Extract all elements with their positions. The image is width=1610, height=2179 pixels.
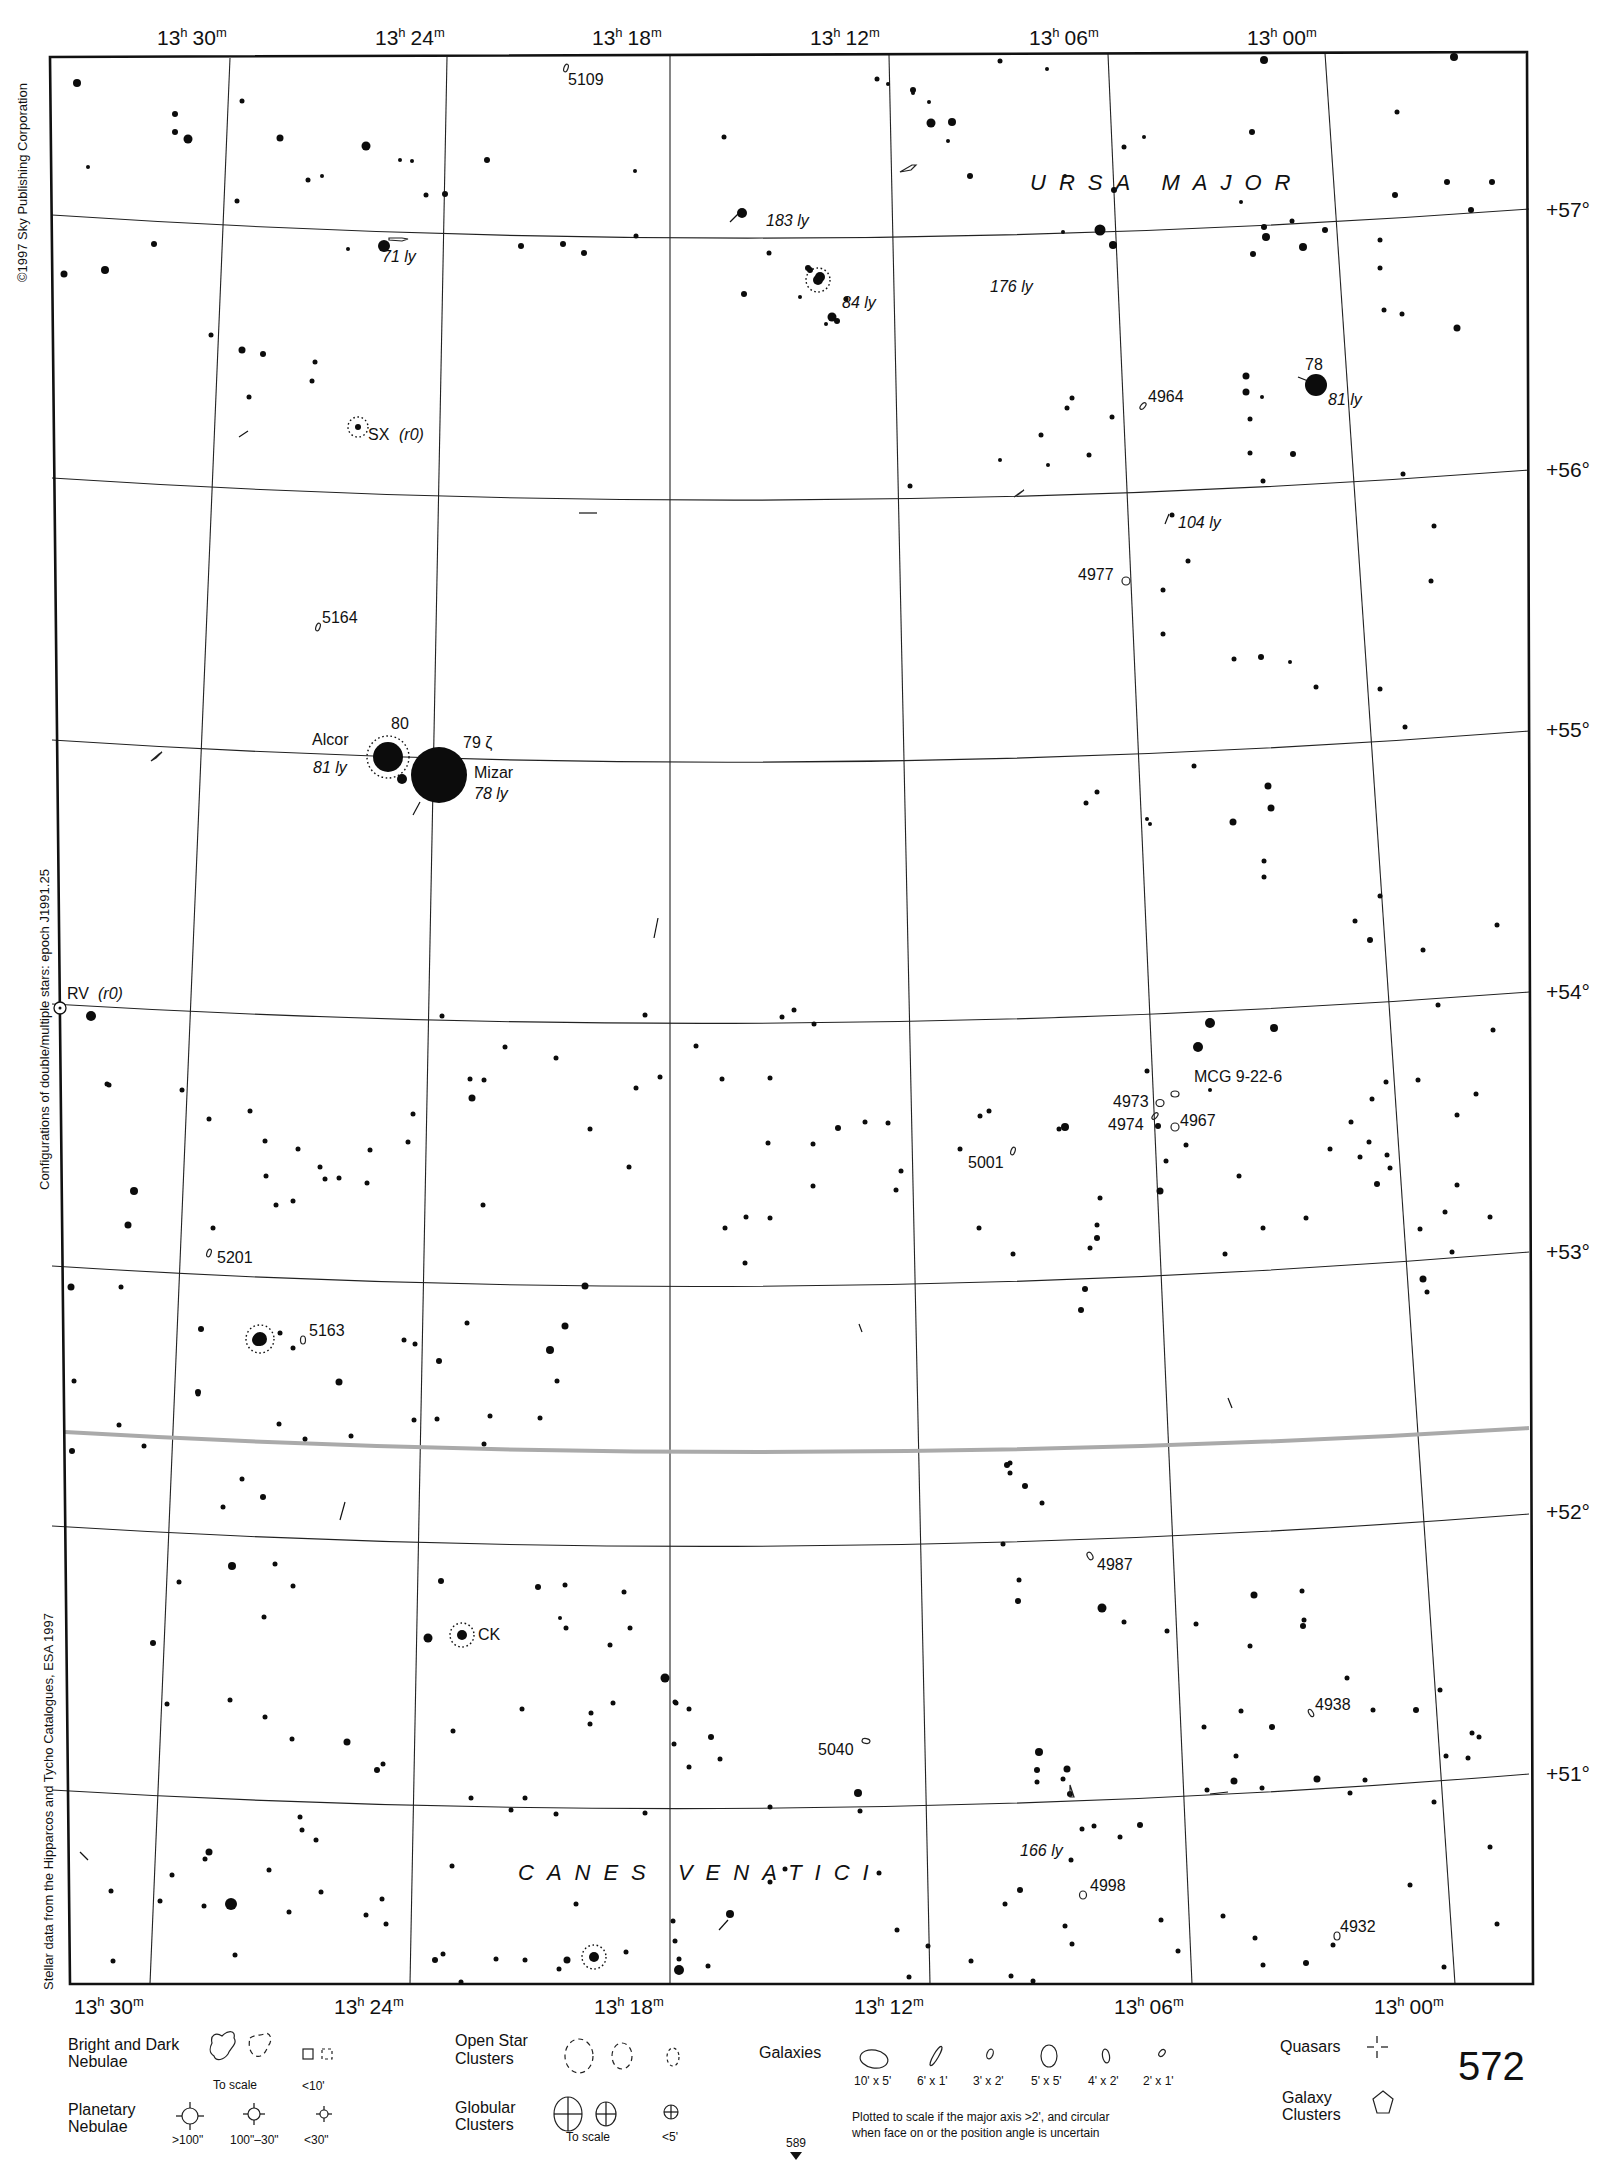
label-ngc4973: 4973 (1113, 1093, 1149, 1110)
label-ngc5109: 5109 (568, 71, 604, 88)
star (1299, 243, 1307, 251)
variable-star (589, 1952, 599, 1962)
star (1474, 1092, 1479, 1097)
star (560, 241, 566, 247)
star (1202, 1725, 1207, 1730)
label-dist-78-mizar: 78 ly (474, 785, 509, 802)
star (381, 1762, 386, 1767)
label-dist-176: 176 ly (990, 278, 1034, 295)
adjacent-page-arrow-icon[interactable] (790, 2152, 802, 2160)
globular-cluster-medium-icon (596, 2102, 616, 2126)
star (1367, 937, 1373, 943)
legend-nebulae-small-caption: <10' (302, 2079, 325, 2093)
star (908, 484, 913, 489)
star (886, 1121, 891, 1126)
star (1095, 225, 1106, 236)
star (1261, 1226, 1266, 1231)
star (1370, 1097, 1375, 1102)
star (1248, 1644, 1253, 1649)
ra-label-top-0: 13h30m (157, 25, 227, 49)
star (1208, 1088, 1212, 1092)
star (239, 347, 246, 354)
star (1260, 1786, 1265, 1791)
star (61, 271, 68, 278)
legend-galaxy-size-5: 4' x 2' (1088, 2074, 1119, 2088)
dec-label-1: +56° (1546, 458, 1590, 481)
motion-arrow-icon (900, 165, 916, 172)
star (886, 82, 890, 86)
star (287, 1910, 292, 1915)
star (1261, 479, 1266, 484)
star (1416, 1078, 1421, 1083)
star (811, 1142, 816, 1147)
star (291, 1584, 296, 1589)
star (1353, 919, 1358, 924)
star (349, 1434, 354, 1439)
star (673, 1700, 678, 1705)
star (184, 135, 193, 144)
star (1444, 179, 1450, 185)
star (1170, 513, 1175, 518)
star (863, 1120, 868, 1125)
star (406, 1140, 411, 1145)
star (1237, 1174, 1242, 1179)
star (622, 1590, 627, 1595)
star (290, 1737, 295, 1742)
legend-open-clusters-title-1: Open Star (455, 2032, 529, 2049)
star (1491, 1028, 1496, 1033)
star (1328, 1147, 1333, 1152)
legend-nebulae-scale-caption: To scale (213, 2078, 257, 2092)
star (1184, 1143, 1189, 1148)
planetary-nebula-large-icon (176, 2102, 204, 2130)
ra-label-top-1: 13h24m (375, 25, 445, 49)
star (694, 1044, 699, 1049)
star (380, 1897, 385, 1902)
star (1385, 1153, 1390, 1158)
galaxy-icon (1151, 1112, 1159, 1121)
star (737, 208, 747, 218)
star (1065, 406, 1070, 411)
dec-gridline (52, 731, 1529, 762)
label-ngc5164: 5164 (322, 609, 358, 626)
star (1450, 1250, 1455, 1255)
star (233, 1953, 238, 1958)
star (86, 165, 90, 169)
galaxy-icon (1171, 1091, 1179, 1097)
galaxy-icon (1139, 402, 1147, 411)
star (69, 1448, 75, 1454)
star (228, 1698, 233, 1703)
star (1443, 1210, 1448, 1215)
star (588, 1722, 593, 1727)
label-var-sx: SX (368, 426, 390, 443)
dec-label-6: +51° (1546, 1762, 1590, 1785)
star (1408, 1883, 1413, 1888)
star (967, 173, 973, 179)
star (1165, 1629, 1170, 1634)
star (235, 199, 240, 204)
legend-planetary-title-2: Nebulae (68, 2118, 128, 2135)
star (1378, 894, 1383, 899)
label-ngc5201: 5201 (217, 1249, 253, 1266)
star (1378, 238, 1383, 243)
star (1231, 1778, 1238, 1785)
star (1035, 1780, 1040, 1785)
planetary-nebula-small-icon (316, 2106, 332, 2122)
star (768, 1076, 773, 1081)
label-var-rv-r: (r0) (98, 985, 123, 1002)
star (768, 1216, 773, 1221)
star (1161, 588, 1166, 593)
star (438, 1578, 444, 1584)
star (1017, 1887, 1023, 1893)
dec-label-2: +55° (1546, 718, 1590, 741)
star (1349, 1120, 1354, 1125)
star (336, 1379, 343, 1386)
star (111, 1959, 116, 1964)
star (337, 1176, 342, 1181)
star (1232, 657, 1237, 662)
star (277, 135, 284, 142)
galaxy-3x2-icon (985, 2048, 994, 2059)
legend-galaxy-size-6: 2' x 1' (1143, 2074, 1174, 2088)
star (722, 135, 727, 140)
star (225, 1898, 237, 1910)
label-mcg: MCG 9-22-6 (1194, 1068, 1282, 1085)
